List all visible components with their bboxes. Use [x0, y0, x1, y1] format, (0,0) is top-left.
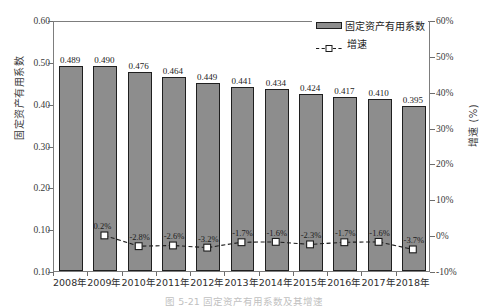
y-tick-mark-right	[430, 164, 435, 165]
growth-value-label: -2.8%	[129, 232, 150, 242]
legend-label-line: 增速	[347, 36, 367, 51]
y-tick-mark-left	[48, 230, 53, 231]
bar-rect	[93, 66, 117, 271]
bar-value-label: 0.434	[266, 78, 286, 88]
x-tick-2011年: 2011年	[156, 275, 190, 289]
bar-value-label: 0.424	[300, 83, 320, 93]
y-tick-mark-left	[48, 63, 53, 64]
x-tick-2009年: 2009年	[87, 275, 121, 289]
y-tick-mark-right	[430, 200, 435, 201]
y-tick-right: 60%	[436, 16, 476, 26]
x-tick-2008年: 2008年	[53, 275, 87, 289]
bar-value-label: 0.449	[197, 72, 217, 82]
bar-rect	[333, 97, 357, 271]
x-tick-2010年: 2010年	[122, 275, 156, 289]
x-tick-2013年: 2013年	[224, 275, 258, 289]
bar-rect	[231, 87, 255, 271]
x-tick-mark	[156, 272, 157, 276]
bar-rect	[402, 106, 426, 271]
y-tick-mark-right	[430, 272, 435, 273]
x-tick-mark	[396, 272, 397, 276]
y-tick-left: 0.10	[16, 225, 50, 235]
y-tick-right: 40%	[436, 88, 476, 98]
y-tick-mark-right	[430, 236, 435, 237]
y-axis-title-left: 固定资产有用系数	[11, 38, 26, 158]
bar-rect	[265, 89, 289, 271]
x-tick-mark	[327, 272, 328, 276]
legend: 固定资产有用系数 增速	[312, 16, 428, 54]
y-tick-right: 50%	[436, 52, 476, 62]
y-tick-mark-right	[430, 21, 435, 22]
y-tick-mark-left	[48, 105, 53, 106]
bar-rect	[368, 99, 392, 271]
y-tick-left: 0.60	[16, 16, 50, 26]
bar-rect	[162, 77, 186, 271]
y-tick-mark-left	[48, 147, 53, 148]
growth-value-label: 0.2%	[94, 221, 112, 231]
growth-value-label: -3.7%	[404, 235, 425, 245]
y-tick-mark-left	[48, 188, 53, 189]
y-tick-left: 0.30	[16, 142, 50, 152]
legend-label-bar: 固定资产有用系数	[345, 18, 425, 33]
bar-value-label: 0.417	[334, 86, 354, 96]
y-tick-right: -10%	[436, 267, 476, 277]
bar-value-label: 0.490	[94, 55, 114, 65]
growth-value-label: -1.7%	[232, 228, 253, 238]
y-tick-left: 0.20	[16, 183, 50, 193]
y-tick-right: 20%	[436, 159, 476, 169]
legend-bar-swatch-icon	[316, 22, 342, 29]
x-tick-mark	[190, 272, 191, 276]
x-tick-mark	[53, 272, 54, 276]
x-tick-mark	[259, 272, 260, 276]
bar-value-label: 0.410	[368, 88, 388, 98]
growth-value-label: -1.6%	[266, 228, 287, 238]
x-tick-mark	[361, 272, 362, 276]
y-tick-right: 10%	[436, 195, 476, 205]
growth-value-label: -3.2%	[198, 234, 219, 244]
legend-item-bar[interactable]: 固定资产有用系数	[316, 18, 425, 33]
growth-value-label: -2.3%	[301, 230, 322, 240]
y-tick-right: 0%	[436, 231, 476, 241]
bar-value-label: 0.464	[163, 66, 183, 76]
y-tick-right: 30%	[436, 124, 476, 134]
x-tick-mark	[293, 272, 294, 276]
y-tick-left: 0.50	[16, 58, 50, 68]
x-tick-mark	[224, 272, 225, 276]
growth-value-label: -1.6%	[369, 228, 390, 238]
y-tick-mark-right	[430, 93, 435, 94]
y-tick-mark-right	[430, 57, 435, 58]
bar-rect	[59, 66, 83, 271]
bar-value-label: 0.441	[231, 76, 251, 86]
x-tick-2016年: 2016年	[327, 275, 361, 289]
bar-2018年[interactable]	[402, 22, 426, 271]
bar-rect	[299, 94, 323, 271]
bar-value-label: 0.476	[129, 61, 149, 71]
growth-value-label: -1.7%	[335, 228, 356, 238]
x-tick-2018年: 2018年	[396, 275, 430, 289]
y-tick-left: 0.40	[16, 100, 50, 110]
legend-item-line[interactable]: 增速	[316, 36, 425, 51]
bar-value-label: 0.395	[403, 95, 423, 105]
x-tick-mark	[87, 272, 88, 276]
growth-value-label: -2.6%	[164, 231, 185, 241]
x-tick-2012年: 2012年	[190, 275, 224, 289]
y-tick-left: 0.10	[16, 267, 50, 277]
legend-line-swatch-icon	[316, 39, 344, 48]
y-tick-mark-right	[430, 129, 435, 130]
x-tick-2014年: 2014年	[259, 275, 293, 289]
x-tick-2017年: 2017年	[361, 275, 395, 289]
figure-caption: 图 5-21 固定资产有用系数及其增速	[0, 294, 488, 308]
x-tick-2015年: 2015年	[293, 275, 327, 289]
bar-value-label: 0.489	[60, 55, 80, 65]
y-tick-mark-left	[48, 21, 53, 22]
x-tick-mark	[122, 272, 123, 276]
